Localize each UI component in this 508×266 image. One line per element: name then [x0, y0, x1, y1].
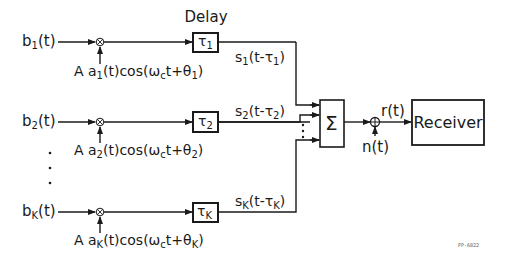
block-diagram [0, 0, 508, 266]
carrier-label-1: A a1(t)cos(ωct+θ1) [74, 64, 203, 81]
delay-label-2: τ2 [198, 114, 213, 131]
receiver-label: Receiver [413, 115, 482, 131]
figure-id: FP-6822 [458, 243, 479, 248]
delay-label-k: τK [197, 204, 212, 221]
received-signal-label: r(t) [381, 104, 405, 119]
carrier-label-2: A a2(t)cos(ωct+θ2) [74, 143, 203, 160]
delayed-signal-k: sK(t-τK) [235, 194, 285, 211]
input-label-k: bK(t) [22, 204, 56, 221]
noise-label: n(t) [362, 140, 389, 155]
input-label-2: b2(t) [22, 114, 56, 131]
delayed-signal-2: s2(t-τ2) [235, 104, 285, 121]
carrier-label-k: A aK(t)cos(ωct+θK) [74, 233, 204, 250]
delayed-signal-1: s1(t-τ1) [235, 50, 285, 67]
delay-heading: Delay [184, 10, 227, 25]
summer-symbol: Σ [325, 113, 338, 133]
delay-label-1: τ1 [198, 34, 213, 51]
input-label-1: b1(t) [22, 34, 56, 51]
